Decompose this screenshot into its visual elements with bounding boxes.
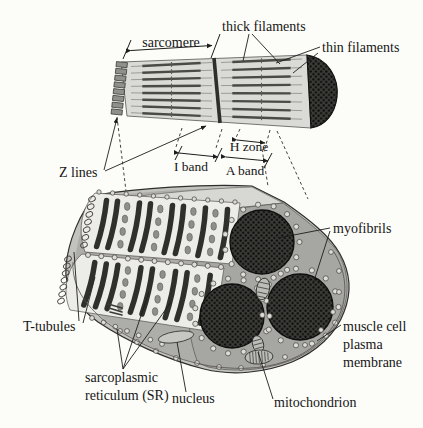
label-sarcomere: sarcomere [142, 35, 200, 50]
z-line-end-plates [111, 62, 127, 116]
label-sr-2: reticulum (SR) [85, 388, 169, 404]
label-thin-filaments: thin filaments [322, 40, 399, 55]
label-muscle-cell-membrane-1: muscle cell [343, 319, 406, 334]
label-myofibrils: myofibrils [333, 221, 391, 236]
label-muscle-cell-membrane-3: membrane [343, 355, 402, 370]
label-t-tubules: T-tubules [23, 319, 75, 334]
label-a-band: A band [226, 163, 265, 178]
myofibril-end-cap [307, 55, 337, 128]
label-sr-1: sarcoplasmic [85, 370, 158, 385]
muscle-structure-figure: sarcomere thick filaments thin filaments… [0, 0, 423, 428]
muscle-cell [57, 185, 349, 372]
label-h-zone: H zone [230, 139, 269, 154]
label-thick-filaments: thick filaments [222, 19, 306, 34]
label-muscle-cell-membrane-2: plasma [343, 337, 383, 352]
diagram-canvas: sarcomere thick filaments thin filaments… [0, 0, 423, 428]
label-nucleus: nucleus [172, 391, 215, 406]
label-mitochondrion: mitochondrion [274, 395, 356, 410]
myofibril-cylinder [111, 55, 337, 128]
label-z-lines: Z lines [59, 165, 98, 180]
label-i-band: I band [174, 159, 208, 174]
